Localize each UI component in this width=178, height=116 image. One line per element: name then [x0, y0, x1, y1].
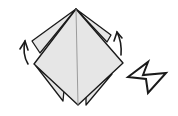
diagram-canvas: [0, 0, 178, 116]
push-arrow-icon: [128, 62, 166, 93]
origami-diagram: [0, 0, 178, 116]
paper-model: [34, 9, 123, 105]
right-fold-arrow: [114, 32, 122, 55]
left-fold-arrow: [20, 41, 28, 64]
